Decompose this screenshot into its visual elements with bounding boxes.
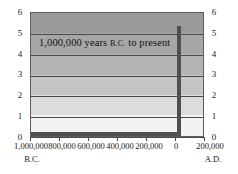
x-axis-era-label-bc: B.C. [24,155,40,164]
x-axis-tick-label-0: 1,000,000 [14,142,48,151]
series-population-spike [177,26,181,136]
annotation-era-smallcaps: B.C. [110,39,125,48]
y-axis-tick-left-3: 3 [14,70,26,79]
annotation-prefix: 1,000,000 years [39,37,110,48]
chart-annotation: 1,000,000 years B.C. to present [39,37,170,50]
x-axis-tick-label-6: 200,000 [196,142,224,151]
y-axis-tick-left-1: 1 [14,112,26,121]
y-axis-tick-right-4: 4 [208,50,220,59]
x-axis-tick-label-2: 600,000 [77,142,105,151]
y-axis-tick-right-2: 2 [208,91,220,100]
x-axis-tick-label-3: 400,000 [106,142,134,151]
population-growth-chart: 6 5 4 3 2 1 0 6 5 4 3 2 1 0 1,000,000 ye… [0,0,238,174]
x-axis-tick-label-5: 0 [174,142,178,151]
x-axis-tick-label-1: 800,000 [48,142,76,151]
plot-area: 1,000,000 years B.C. to present [30,12,204,137]
y-axis-tick-right-3: 3 [208,70,220,79]
y-axis-tick-left-5: 5 [14,29,26,38]
y-axis-tick-right-6: 6 [208,8,220,17]
y-axis-tick-right-5: 5 [208,29,220,38]
x-axis-tick-label-4: 200,000 [135,142,163,151]
x-axis-era-label-ad: A.D. [205,155,222,164]
series-flat-baseline [31,132,179,136]
y-axis-tick-left-6: 6 [14,8,26,17]
annotation-suffix: to present [126,37,171,48]
y-axis-tick-right-1: 1 [208,112,220,121]
y-axis-tick-left-2: 2 [14,91,26,100]
y-axis-tick-left-4: 4 [14,50,26,59]
